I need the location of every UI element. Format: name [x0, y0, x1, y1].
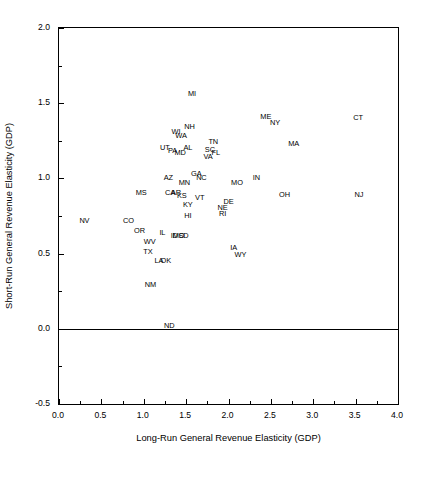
data-point-label: OH [279, 191, 290, 198]
data-point-label: IL [159, 229, 165, 236]
data-point-label: NM [145, 281, 156, 288]
y-tick [59, 66, 62, 67]
y-tick [59, 329, 64, 330]
data-point-label: SD [179, 232, 189, 239]
x-tick [229, 399, 230, 404]
x-tick [123, 401, 124, 404]
data-point-label: IN [253, 175, 260, 182]
data-point-label: NH [184, 124, 194, 131]
x-tick [292, 401, 293, 404]
x-tick-label: 4.0 [391, 410, 403, 420]
data-point-label: WY [235, 251, 247, 258]
x-tick-label: 3.0 [306, 410, 318, 420]
zero-reference-line [59, 329, 398, 330]
x-tick [207, 401, 208, 404]
x-tick-label: 2.5 [264, 410, 276, 420]
data-point-label: CO [123, 217, 134, 224]
data-point-label: KS [177, 193, 187, 200]
x-tick [250, 401, 251, 404]
data-point-label: RI [219, 211, 226, 218]
data-point-label: MI [188, 90, 196, 97]
y-tick [59, 141, 62, 142]
x-tick [101, 399, 102, 404]
y-tick [59, 254, 64, 255]
data-point-label: MS [136, 190, 147, 197]
x-tick [80, 401, 81, 404]
data-point-label: NY [270, 119, 280, 126]
y-tick [59, 291, 62, 292]
data-point-label: FL [212, 149, 220, 156]
data-point-label: ND [164, 322, 174, 329]
scatter-plot-figure: MICTMENYNHWIWATNMAUTALSCPAMDFLVAGANCAZIN… [0, 0, 434, 504]
x-tick [186, 399, 187, 404]
data-point-label: WA [175, 133, 186, 140]
x-tick [165, 401, 166, 404]
data-point-label: KY [183, 202, 193, 209]
x-tick [334, 401, 335, 404]
x-tick-label: 1.5 [179, 410, 191, 420]
x-tick-label: 0.0 [52, 410, 64, 420]
y-tick [59, 216, 62, 217]
x-tick [356, 399, 357, 404]
x-axis-title: Long-Run General Revenue Elasticity (GDP… [58, 433, 399, 443]
data-point-label: VA [204, 154, 213, 161]
y-tick-label: 1.5 [0, 97, 50, 107]
data-point-label: NV [79, 217, 89, 224]
data-point-label: MN [179, 179, 190, 186]
x-tick-label: 1.0 [137, 410, 149, 420]
x-tick [144, 399, 145, 404]
x-tick [271, 399, 272, 404]
data-point-label: VT [195, 194, 204, 201]
y-tick [59, 404, 64, 405]
y-tick [59, 28, 64, 29]
y-tick [59, 366, 62, 367]
x-tick [313, 399, 314, 404]
x-tick [398, 399, 399, 404]
data-point-label: TX [143, 248, 152, 255]
data-point-label: WV [144, 238, 156, 245]
data-point-label: OK [161, 257, 171, 264]
data-point-label: MD [175, 149, 186, 156]
y-tick-label: -0.5 [0, 398, 50, 408]
data-point-label: NJ [355, 191, 364, 198]
x-tick-label: 0.5 [94, 410, 106, 420]
x-tick [377, 401, 378, 404]
data-point-label: MO [231, 179, 243, 186]
x-tick-label: 2.0 [222, 410, 234, 420]
data-point-label: MA [288, 140, 299, 147]
data-point-label: CT [353, 115, 363, 122]
plot-area: MICTMENYNHWIWATNMAUTALSCPAMDFLVAGANCAZIN… [58, 27, 399, 405]
data-point-label: NC [196, 175, 206, 182]
y-tick-label: 2.0 [0, 22, 50, 32]
x-tick-label: 3.5 [349, 410, 361, 420]
data-point-label: OR [134, 227, 145, 234]
y-tick [59, 103, 64, 104]
y-axis-title: Short-Run General Revenue Elasticity (GD… [4, 123, 14, 309]
data-point-label: AZ [164, 175, 173, 182]
y-tick-label: 0.0 [0, 323, 50, 333]
y-tick [59, 178, 64, 179]
data-point-label: HI [184, 212, 191, 219]
